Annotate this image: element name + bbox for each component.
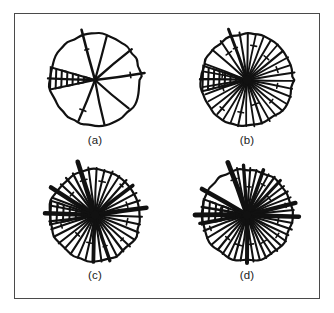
panel-b-caption: (b)	[177, 134, 317, 146]
spoke-tick	[130, 72, 131, 77]
panel-a-diagram	[25, 22, 165, 140]
spoke-tick	[80, 109, 86, 111]
figure-frame: (a) (b) (c) (d)	[14, 13, 320, 299]
panel-c-caption: (c)	[25, 269, 165, 281]
hatched-wedge-fill	[56, 69, 90, 88]
panel-c: (c)	[25, 157, 165, 297]
radial-diagram-d	[195, 162, 299, 263]
spoke-tick	[277, 84, 278, 88]
panel-c-diagram	[25, 157, 165, 275]
spoke	[79, 80, 95, 121]
spoke-tick	[251, 45, 257, 46]
spoke-tick	[85, 49, 89, 50]
center-hub	[243, 211, 251, 219]
spoke-tick	[99, 181, 105, 182]
spoke-tick	[278, 218, 279, 223]
spoke	[82, 30, 95, 80]
radial-diagram-a	[48, 30, 144, 126]
spoke-tick	[249, 244, 254, 245]
figure-root: (a) (b) (c) (d)	[0, 0, 334, 313]
panel-d-caption: (d)	[177, 269, 317, 281]
center-hub	[91, 211, 99, 219]
spoke-tick	[276, 67, 278, 73]
spoke-tick	[222, 73, 223, 77]
spoke-tick	[252, 103, 258, 105]
panel-d-diagram	[177, 157, 317, 275]
spoke-tick	[126, 202, 128, 207]
panel-b-diagram	[177, 22, 317, 140]
spoke-tick	[61, 224, 62, 228]
radial-diagram-c	[45, 162, 146, 262]
center-hub	[93, 78, 96, 81]
spoke-tick	[87, 242, 92, 243]
center-hub	[243, 76, 251, 84]
panel-a-caption: (a)	[25, 134, 165, 146]
panel-d: (d)	[177, 157, 317, 297]
panel-a: (a)	[25, 22, 165, 162]
panel-b: (b)	[177, 22, 317, 162]
spoke-tick	[235, 244, 241, 246]
spoke-tick	[285, 203, 286, 207]
spoke-tick	[126, 219, 127, 225]
spoke-tick	[238, 112, 244, 113]
radial-diagram-b	[200, 29, 294, 126]
